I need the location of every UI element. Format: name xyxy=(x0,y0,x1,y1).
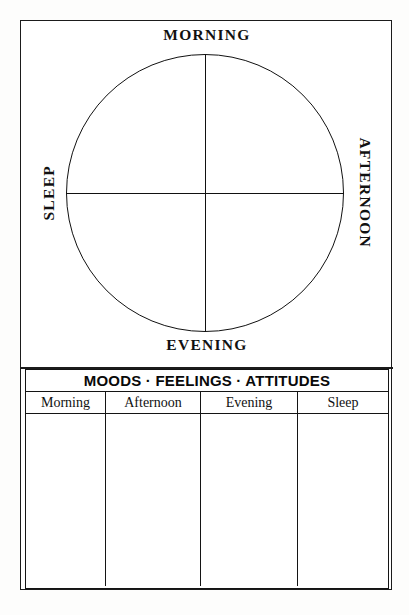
table-header-cell-evening: Evening xyxy=(201,392,298,413)
horizontal-axis-line xyxy=(66,193,344,194)
table-header-cell-morning: Morning xyxy=(26,392,106,413)
wheel-label-afternoon: AFTERNOON xyxy=(357,133,373,253)
writing-area-morning[interactable] xyxy=(26,414,105,586)
page-sheet: MORNING AFTERNOON EVENING SLEEP MOODS · … xyxy=(0,0,409,615)
table-row xyxy=(26,414,388,586)
wheel-label-sleep: SLEEP xyxy=(41,133,57,253)
worksheet-frame: MORNING AFTERNOON EVENING SLEEP MOODS · … xyxy=(20,20,392,590)
table-cell-afternoon[interactable] xyxy=(106,414,201,586)
column-header-label: Morning xyxy=(41,396,90,410)
table-header-cell-afternoon: Afternoon xyxy=(106,392,201,413)
writing-area-afternoon[interactable] xyxy=(106,414,200,586)
column-header-label: Afternoon xyxy=(124,396,182,410)
table-header-row: Morning Afternoon Evening Sleep xyxy=(26,392,388,414)
column-header-label: Sleep xyxy=(327,396,358,410)
writing-area-sleep[interactable] xyxy=(298,414,388,586)
wheel-label-evening: EVENING xyxy=(21,337,393,353)
moods-table-title: MOODS · FEELINGS · ATTITUDES xyxy=(84,373,330,388)
wheel-label-morning: MORNING xyxy=(21,27,393,43)
moods-title-band: MOODS · FEELINGS · ATTITUDES xyxy=(26,370,388,392)
table-cell-evening[interactable] xyxy=(201,414,298,586)
writing-area-evening[interactable] xyxy=(201,414,297,586)
table-header-cell-sleep: Sleep xyxy=(298,392,388,413)
table-cell-sleep[interactable] xyxy=(298,414,388,586)
wheel-region: MORNING AFTERNOON EVENING SLEEP xyxy=(21,21,393,369)
moods-table: MOODS · FEELINGS · ATTITUDES Morning Aft… xyxy=(25,369,389,589)
table-cell-morning[interactable] xyxy=(26,414,106,586)
column-header-label: Evening xyxy=(226,396,273,410)
